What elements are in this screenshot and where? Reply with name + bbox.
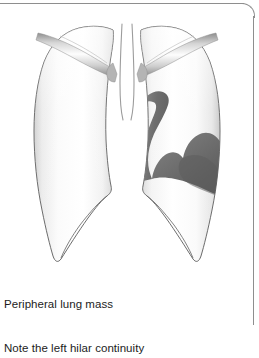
right-lung-field xyxy=(34,26,113,261)
caption: Peripheral lung mass Note the left hilar… xyxy=(4,268,234,358)
caption-line-2: Note the left hilar continuity xyxy=(4,341,234,356)
caption-line-1: Peripheral lung mass xyxy=(4,297,234,312)
trachea xyxy=(120,24,134,120)
